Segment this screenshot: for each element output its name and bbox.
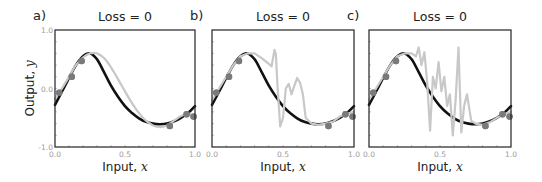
data-point <box>342 111 348 117</box>
x-tick-label: 0.5 <box>119 150 131 159</box>
axes-frame <box>369 30 511 147</box>
y-tick-label: 1.0 <box>41 26 53 35</box>
y-tick-label: -1.0 <box>38 143 53 152</box>
data-point <box>370 89 376 95</box>
fitted-model-curve <box>212 50 354 127</box>
data-point <box>499 111 505 117</box>
panel-label: a) <box>33 8 46 23</box>
panel-label: b) <box>190 8 203 23</box>
axes-frame <box>55 30 195 147</box>
data-point <box>69 74 75 80</box>
data-point <box>506 113 512 119</box>
data-point <box>236 58 242 64</box>
x-tick-label: 1.0 <box>348 150 360 159</box>
fitted-model-curve <box>369 48 511 136</box>
panel-b: b)Loss = 00.00.51.0Input, x <box>190 8 360 174</box>
x-tick-label: 1.0 <box>505 150 517 159</box>
data-point <box>349 113 355 119</box>
data-point <box>393 58 399 64</box>
data-point <box>482 123 488 129</box>
panel-a: a)Loss = 00.00.51.0Input, x1.00.0-1.0Out… <box>23 8 201 174</box>
x-axis-label: Input, x <box>102 160 148 174</box>
data-point <box>167 123 173 129</box>
y-axis-label: Output, y <box>23 60 37 116</box>
data-point <box>56 89 62 95</box>
panel-label: c) <box>347 8 359 23</box>
data-point <box>183 111 189 117</box>
data-point <box>383 74 389 80</box>
panel-title: Loss = 0 <box>256 9 310 24</box>
panel-title: Loss = 0 <box>413 9 467 24</box>
x-axis-label: Input, x <box>260 160 306 174</box>
x-axis-label: Input, x <box>417 160 463 174</box>
x-tick-label: 1.0 <box>189 150 201 159</box>
x-tick-label: 0.5 <box>434 150 446 159</box>
x-tick-label: 0.0 <box>206 150 218 159</box>
fitted-model-curve <box>55 53 195 127</box>
x-tick-label: 0.5 <box>277 150 289 159</box>
data-point <box>213 89 219 95</box>
data-point <box>226 74 232 80</box>
y-tick-label: 0.0 <box>41 85 53 94</box>
panel-title: Loss = 0 <box>98 9 152 24</box>
figure-canvas: a)Loss = 00.00.51.0Input, x1.00.0-1.0Out… <box>0 0 542 182</box>
data-point <box>78 58 84 64</box>
data-point <box>190 113 196 119</box>
panel-c: c)Loss = 00.00.51.0Input, x <box>347 8 517 174</box>
data-point <box>325 123 331 129</box>
x-tick-label: 0.0 <box>363 150 375 159</box>
axes-frame <box>212 30 354 147</box>
